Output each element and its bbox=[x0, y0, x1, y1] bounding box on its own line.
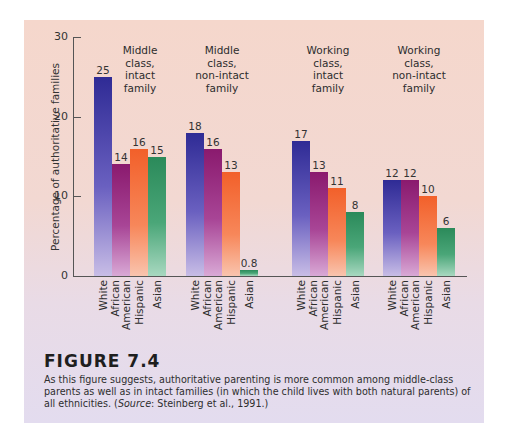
bar-value-label: 16 bbox=[198, 136, 228, 148]
figure-caption: As this figure suggests, authoritative p… bbox=[44, 374, 484, 411]
y-axis-label: Percentage of authoritative families bbox=[49, 42, 61, 272]
group-title: Workingclass,intactfamily bbox=[283, 44, 373, 94]
caption-source-label: Source bbox=[118, 398, 151, 409]
y-tick-label: 0 bbox=[40, 269, 68, 282]
bar-asian bbox=[148, 157, 166, 277]
bar-value-label: 11 bbox=[322, 175, 352, 187]
category-label: Asian bbox=[441, 280, 452, 340]
bar-value-label: 0.8 bbox=[234, 257, 264, 269]
bar-value-label: 12 bbox=[395, 167, 425, 179]
bar-hispanic bbox=[130, 149, 148, 276]
x-axis bbox=[73, 276, 467, 277]
category-label: White bbox=[387, 280, 398, 340]
y-tick-label: 10 bbox=[40, 189, 68, 202]
category-label: AfricanAmerican bbox=[308, 280, 330, 340]
category-label: AfricanAmerican bbox=[202, 280, 224, 340]
category-label: AfricanAmerican bbox=[399, 280, 421, 340]
bar-value-label: 15 bbox=[142, 144, 172, 156]
y-tick-label: 20 bbox=[40, 110, 68, 123]
bar-asian bbox=[437, 228, 455, 276]
category-label: Asian bbox=[350, 280, 361, 340]
category-label: White bbox=[296, 280, 307, 340]
category-label: Asian bbox=[152, 280, 163, 340]
bar-asian bbox=[240, 270, 258, 276]
bar-value-label: 25 bbox=[88, 64, 118, 76]
category-label: White bbox=[98, 280, 109, 340]
bar-african-american bbox=[112, 164, 130, 276]
y-axis bbox=[73, 37, 74, 277]
bar-white bbox=[94, 77, 112, 276]
bar-value-label: 10 bbox=[413, 183, 443, 195]
group-title: Middleclass,non-intactfamily bbox=[177, 44, 267, 94]
bar-value-label: 6 bbox=[431, 215, 461, 227]
y-tick bbox=[73, 196, 81, 197]
bar-value-label: 8 bbox=[340, 199, 370, 211]
category-label: Hispanic bbox=[423, 280, 434, 340]
bar-value-label: 18 bbox=[180, 120, 210, 132]
category-label: Asian bbox=[244, 280, 255, 340]
category-label: Hispanic bbox=[226, 280, 237, 340]
y-tick bbox=[73, 117, 81, 118]
group-title: Workingclass,non-intactfamily bbox=[374, 44, 464, 94]
y-tick-label: 30 bbox=[40, 30, 68, 43]
bar-african-american bbox=[310, 172, 328, 276]
bar-hispanic bbox=[419, 196, 437, 276]
bar-white bbox=[186, 133, 204, 276]
bar-value-label: 17 bbox=[286, 128, 316, 140]
category-label: White bbox=[190, 280, 201, 340]
figure-title: FIGURE 7.4 bbox=[44, 351, 160, 371]
category-label: Hispanic bbox=[332, 280, 343, 340]
category-label: Hispanic bbox=[134, 280, 145, 340]
caption-source-text: : Steinberg et al., 1991.) bbox=[151, 398, 268, 409]
bar-asian bbox=[346, 212, 364, 276]
category-label: AfricanAmerican bbox=[110, 280, 132, 340]
y-tick bbox=[73, 37, 81, 38]
bar-white bbox=[383, 180, 401, 276]
bar-value-label: 13 bbox=[216, 159, 246, 171]
bar-value-label: 13 bbox=[304, 159, 334, 171]
